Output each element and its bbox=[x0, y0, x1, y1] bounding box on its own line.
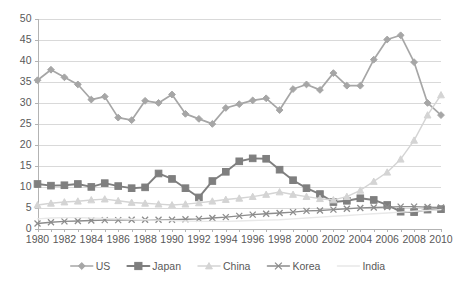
data-point-marker bbox=[263, 155, 270, 162]
y-axis-tick-label: 45 bbox=[20, 33, 32, 45]
data-point-marker bbox=[223, 169, 230, 176]
data-point-marker bbox=[236, 101, 243, 108]
x-axis-tick-label: 1994 bbox=[214, 233, 238, 245]
y-axis-tick-label: 5 bbox=[26, 201, 32, 213]
x-axis-tick-label: 1998 bbox=[268, 233, 292, 245]
series-china bbox=[34, 92, 444, 208]
line-chart-svg: 05101520253035404550 1980198219841986198… bbox=[0, 0, 456, 285]
y-axis-tick-label: 35 bbox=[20, 75, 32, 87]
legend-marker-swatch bbox=[78, 263, 85, 270]
data-point-marker bbox=[290, 177, 297, 184]
x-axis-tick-label: 2008 bbox=[402, 233, 426, 245]
x-axis-tick-label: 1982 bbox=[53, 233, 77, 245]
legend-label: India bbox=[362, 260, 385, 272]
series-korea bbox=[35, 204, 445, 227]
y-axis-tick-label: 40 bbox=[20, 54, 32, 66]
data-point-marker bbox=[155, 170, 162, 177]
x-axis-tick-label: 2002 bbox=[322, 233, 346, 245]
legend-item-india[interactable]: India bbox=[337, 260, 385, 272]
x-axis-tick-label: 2006 bbox=[376, 233, 400, 245]
x-axis-tick-label: 1980 bbox=[26, 233, 50, 245]
data-point-marker bbox=[357, 82, 364, 89]
data-point-marker bbox=[101, 180, 108, 187]
x-axis-tick-label: 2010 bbox=[429, 233, 453, 245]
y-axis-tick-label: 25 bbox=[20, 117, 32, 129]
x-axis-tick-label: 1992 bbox=[187, 233, 211, 245]
data-point-marker bbox=[276, 166, 283, 173]
x-axis-tick-label: 2004 bbox=[349, 233, 373, 245]
x-axis-tick-label: 1996 bbox=[241, 233, 265, 245]
x-axis-tick-label: 2000 bbox=[295, 233, 319, 245]
legend-label: Korea bbox=[292, 260, 320, 272]
legend-item-korea[interactable]: Korea bbox=[267, 260, 320, 272]
y-axis-tick-label: 15 bbox=[20, 159, 32, 171]
legend-marker-swatch bbox=[135, 262, 142, 269]
data-point-marker bbox=[249, 155, 256, 162]
data-point-marker bbox=[438, 92, 445, 98]
y-axis-tick-label: 10 bbox=[20, 180, 32, 192]
legend-label: China bbox=[223, 260, 251, 272]
data-point-marker bbox=[343, 193, 350, 199]
legend-item-japan[interactable]: Japan bbox=[127, 260, 181, 272]
legend-item-china[interactable]: China bbox=[198, 260, 251, 272]
data-point-marker bbox=[397, 32, 404, 39]
data-point-marker bbox=[209, 178, 216, 185]
data-point-marker bbox=[249, 97, 256, 104]
x-axis-tick-label: 1984 bbox=[80, 233, 104, 245]
x-axis-tick-labels: 1980198219841986198819901992199419961998… bbox=[26, 233, 453, 245]
chart-legend: USJapanChinaKoreaIndia bbox=[71, 260, 386, 272]
data-point-marker bbox=[411, 137, 418, 143]
data-point-marker bbox=[142, 184, 149, 191]
legend-item-us[interactable]: US bbox=[71, 260, 111, 272]
x-axis-tick-label: 1990 bbox=[160, 233, 184, 245]
y-axis-tick-label: 30 bbox=[20, 96, 32, 108]
data-point-marker bbox=[61, 74, 68, 81]
data-point-marker bbox=[236, 158, 243, 165]
y-axis-tick-labels: 05101520253035404550 bbox=[20, 12, 32, 234]
series-line bbox=[38, 35, 442, 124]
y-axis-tick-label: 20 bbox=[20, 138, 32, 150]
chart-container: 05101520253035404550 1980198219841986198… bbox=[0, 0, 456, 285]
data-point-marker bbox=[169, 176, 176, 183]
data-point-marker bbox=[196, 115, 203, 122]
x-axis-tick-label: 1986 bbox=[107, 233, 131, 245]
y-axis-tick-label: 50 bbox=[20, 12, 32, 24]
data-point-marker bbox=[61, 182, 68, 189]
data-point-marker bbox=[411, 59, 418, 66]
data-point-marker bbox=[48, 182, 55, 189]
x-axis-tick-label: 1988 bbox=[133, 233, 157, 245]
data-point-marker bbox=[357, 195, 364, 202]
data-point-marker bbox=[75, 181, 82, 188]
data-point-marker bbox=[34, 181, 41, 188]
data-point-marker bbox=[182, 185, 189, 192]
data-point-marker bbox=[128, 185, 135, 192]
series-us bbox=[34, 32, 444, 127]
series-line bbox=[38, 95, 442, 205]
data-point-marker bbox=[370, 197, 377, 204]
legend-label: Japan bbox=[152, 260, 181, 272]
data-point-marker bbox=[115, 183, 122, 190]
data-point-marker bbox=[88, 184, 95, 191]
legend-label: US bbox=[96, 260, 111, 272]
series-japan bbox=[34, 155, 444, 215]
data-point-marker bbox=[303, 185, 310, 192]
chart-plot-area: 05101520253035404550 1980198219841986198… bbox=[0, 0, 456, 285]
